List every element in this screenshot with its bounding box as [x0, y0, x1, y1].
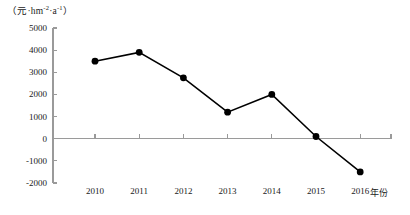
data-point-marker [268, 91, 275, 98]
x-axis-tick-label: 2014 [263, 186, 281, 196]
y-axis-tick-label: -1000 [0, 156, 47, 166]
data-point-marker [180, 74, 187, 81]
y-axis-tick-label: 5000 [0, 23, 47, 33]
x-axis-tick-label: 2013 [219, 186, 237, 196]
y-axis-tick-label: 1000 [0, 112, 47, 122]
x-axis-tick-label: 2010 [86, 186, 104, 196]
data-point-marker [92, 58, 99, 65]
data-point-marker [357, 169, 364, 176]
chart-container: （元·hm-2·a-1） 500040003000200010000-1000-… [0, 0, 410, 215]
data-point-marker [136, 49, 143, 56]
data-series-layer [92, 49, 364, 175]
y-axis-tick-label: 2000 [0, 89, 47, 99]
axis-layer [53, 28, 391, 183]
y-axis-tick-label: 0 [0, 134, 47, 144]
x-axis-title: 年份 [370, 186, 388, 199]
y-axis-tick-label: -2000 [0, 178, 47, 188]
data-point-marker [313, 133, 320, 140]
data-point-marker [224, 109, 231, 116]
x-axis-tick-label: 2016 [351, 186, 369, 196]
y-axis-tick-label: 3000 [0, 67, 47, 77]
plot-area [0, 0, 410, 215]
x-axis-tick-label: 2011 [130, 186, 148, 196]
y-axis-tick-label: 4000 [0, 45, 47, 55]
x-axis-tick-label: 2012 [174, 186, 192, 196]
x-axis-tick-label: 2015 [307, 186, 325, 196]
